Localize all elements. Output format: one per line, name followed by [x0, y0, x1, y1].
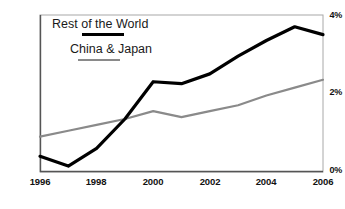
plot-frame-box	[40, 15, 323, 172]
data-line-rest-of-the-world	[40, 27, 323, 166]
data-line-china-and-japan	[40, 80, 323, 137]
axis-frame	[40, 15, 323, 172]
